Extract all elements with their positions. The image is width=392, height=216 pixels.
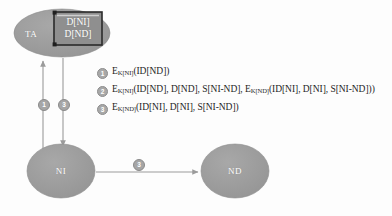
document-corner-bl bbox=[53, 42, 57, 46]
legend-1-subscript: K[NI] bbox=[118, 69, 134, 76]
legend-text-2: EK[NI](ID[ND], D[ND], S[NI-ND], EK[ND](I… bbox=[112, 84, 375, 96]
legend-bullet-3: 3 bbox=[97, 104, 108, 115]
legend-2-subscript: K[NI] bbox=[118, 87, 134, 94]
diagram-canvas: TA NI ND D[NI] D[ND] 1 3 3 1 EK[NI](ID[N… bbox=[0, 0, 392, 216]
legend-bullet-2: 2 bbox=[97, 86, 108, 97]
legend-bullet-1: 1 bbox=[97, 68, 108, 79]
document-line-1: D[NI] bbox=[58, 17, 98, 29]
step-marker-ni-to-nd: 3 bbox=[133, 159, 145, 171]
legend-2-subscript-2: K[ND] bbox=[251, 87, 269, 94]
node-ni-label: NI bbox=[44, 166, 78, 176]
legend-row: 3 EK[ND](ID[NI], D[NI], S[NI-ND]) bbox=[97, 102, 391, 115]
step-marker-ta-to-ni: 3 bbox=[58, 99, 70, 111]
legend-row: 1 EK[NI](ID[ND]) bbox=[97, 66, 391, 79]
legend: 1 EK[NI](ID[ND]) 2 EK[NI](ID[ND], D[ND],… bbox=[97, 66, 391, 120]
legend-1-body: (ID[ND]) bbox=[133, 66, 169, 76]
document-text: D[NI] D[ND] bbox=[58, 17, 98, 40]
legend-text-3: EK[ND](ID[NI], D[NI], S[NI-ND]) bbox=[112, 102, 239, 114]
legend-text-1: EK[NI](ID[ND]) bbox=[112, 66, 169, 78]
document-line-2: D[ND] bbox=[58, 29, 98, 41]
legend-3-body: (ID[NI], D[NI], S[NI-ND]) bbox=[136, 102, 239, 112]
node-ta-label: TA bbox=[14, 29, 48, 39]
legend-2-body: (ID[ND], D[ND], S[NI-ND], E bbox=[133, 84, 250, 94]
node-nd-label: ND bbox=[218, 166, 252, 176]
legend-row: 2 EK[NI](ID[ND], D[ND], S[NI-ND], EK[ND]… bbox=[97, 84, 391, 97]
document-corner-tl bbox=[53, 11, 57, 15]
step-marker-ni-to-ta: 1 bbox=[38, 99, 50, 111]
legend-3-subscript: K[ND] bbox=[118, 105, 136, 112]
legend-2-body-2: (ID[NI], D[NI], S[NI-ND])) bbox=[269, 84, 375, 94]
